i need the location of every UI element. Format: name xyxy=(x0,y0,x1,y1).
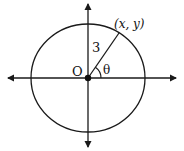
origin-dot xyxy=(85,75,91,81)
radius-label: 3 xyxy=(92,40,100,55)
angle-label: θ xyxy=(103,63,110,77)
polar-coordinate-diagram: O 3 θ (x, y) xyxy=(0,0,184,151)
point-label: (x, y) xyxy=(114,17,145,31)
origin-label: O xyxy=(72,64,83,79)
angle-arc xyxy=(95,67,101,78)
